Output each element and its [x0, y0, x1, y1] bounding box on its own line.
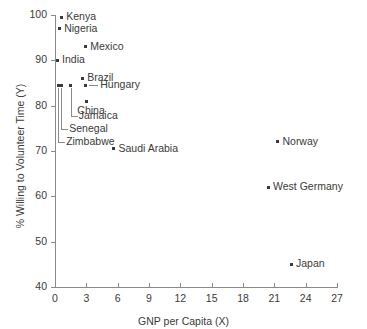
x-tick-mark [180, 283, 181, 288]
y-tick-mark [51, 151, 55, 152]
data-point-label: Jamaica [79, 110, 118, 121]
y-tick-mark [51, 15, 55, 16]
data-point [85, 100, 88, 103]
x-tick-mark [337, 283, 338, 288]
data-point [290, 263, 293, 266]
data-point [69, 84, 72, 87]
x-axis-line [55, 287, 337, 288]
x-axis-title: GNP per Capita (X) [0, 315, 367, 327]
x-tick-mark [118, 283, 119, 288]
data-point-label: Senegal [69, 123, 108, 134]
x-tick-mark [306, 283, 307, 288]
data-point [57, 84, 60, 87]
data-point [60, 84, 63, 87]
data-point-label: Japan [296, 258, 325, 269]
y-tick-label: 100 [9, 9, 47, 20]
data-point [81, 77, 84, 80]
data-point [84, 84, 87, 87]
x-tick-label: 27 [317, 293, 357, 304]
x-tick-mark [212, 283, 213, 288]
data-point-label: Zimbabwe [66, 136, 114, 147]
x-tick-mark [86, 283, 87, 288]
data-point-label: Kenya [66, 11, 96, 22]
y-tick-label: 90 [9, 54, 47, 65]
y-axis-line [55, 15, 56, 287]
x-tick-mark [55, 283, 56, 288]
y-tick-mark [51, 60, 55, 61]
x-tick-mark [149, 283, 150, 288]
y-tick-label: 40 [9, 281, 47, 292]
y-tick-mark [51, 196, 55, 197]
data-point [58, 27, 61, 30]
data-point [112, 147, 115, 150]
data-point [276, 140, 279, 143]
x-tick-mark [243, 283, 244, 288]
data-point-label: Saudi Arabia [118, 143, 178, 154]
data-point-label: Nigeria [64, 23, 97, 34]
leader-dash [89, 85, 98, 86]
x-tick-mark [274, 283, 275, 288]
y-tick-mark [51, 106, 55, 107]
data-point [56, 59, 59, 62]
data-point-label: Norway [282, 136, 318, 147]
data-point-label: Mexico [90, 41, 123, 52]
data-point [267, 186, 270, 189]
y-axis-title: % Willing to Volunteer Time (Y) [14, 66, 26, 246]
data-point-label: India [62, 54, 85, 65]
data-point [60, 16, 63, 19]
data-point-label: West Germany [273, 181, 343, 192]
y-tick-mark [51, 242, 55, 243]
data-point-label: Hungary [100, 79, 140, 90]
data-point [84, 45, 87, 48]
scatter-chart: KenyaNigeriaMexicoIndiaBrazilHungaryChin… [0, 0, 367, 329]
